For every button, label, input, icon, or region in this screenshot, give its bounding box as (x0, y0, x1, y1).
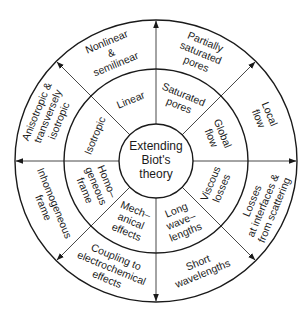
inner-label-0: Linear (115, 88, 147, 110)
inner-label-2: Globalflow (201, 117, 235, 154)
outer-label-5: Coupling toelectrochemicaleffects (71, 237, 152, 298)
outer-label-7: Anisotropic &transverselyisotropic (19, 80, 76, 151)
outer-label-0: Nonlinear&semilinear (82, 26, 140, 78)
biot-theory-wheel-diagram: ExtendingBiot'stheory LinearSaturatedpor… (0, 0, 308, 318)
outer-label-2: Localflow (249, 100, 281, 132)
outer-label-3: Lossesat interfaces &from scattering (233, 166, 293, 244)
inner-label-5: Mech–anicaleffects (110, 198, 153, 243)
inner-label-7: Isotropic (81, 115, 107, 156)
outer-label-6: Inhomogeneousframe (24, 166, 75, 245)
inner-label-1: Saturatedpores (156, 80, 207, 120)
inner-label-4: Longwave–lengths (158, 197, 203, 243)
inner-label-3: Viscouslosses (197, 164, 233, 207)
outer-label-4: Shortwavelengths (168, 245, 232, 290)
